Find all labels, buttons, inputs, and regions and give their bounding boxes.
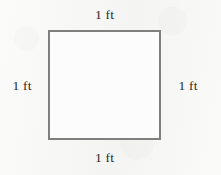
square-left-side-label: 1 ft xyxy=(0,79,44,93)
geometry-figure: 1 ft 1 ft 1 ft 1 ft xyxy=(0,0,221,175)
square-right-side-label: 1 ft xyxy=(166,79,210,93)
square-top-side-label: 1 ft xyxy=(48,8,161,22)
square-bottom-side-label: 1 ft xyxy=(48,151,161,165)
square-shape xyxy=(48,30,161,140)
